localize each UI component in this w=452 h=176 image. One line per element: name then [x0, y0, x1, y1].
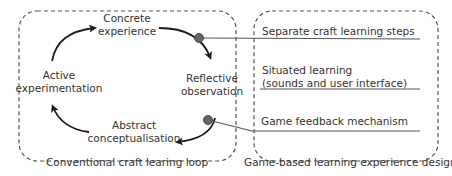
- arrow-active-to-concrete: [52, 28, 94, 61]
- arrow-concrete-to-reflective: [159, 28, 210, 57]
- left-panel-caption: Conventional craft learing loop: [32, 156, 222, 169]
- stage-label-line: Abstract: [84, 119, 184, 132]
- stage-label-line: Active: [14, 69, 104, 82]
- stage-label-line: Concrete: [92, 12, 162, 25]
- stage-label-line: Reflective: [172, 72, 252, 85]
- stage-label-line: experimentation: [14, 82, 104, 95]
- stage-active-experimentation: Active experimentation: [14, 69, 104, 95]
- connector-node-top: [195, 34, 204, 43]
- item-label-line: Situated learning: [262, 64, 407, 77]
- connector-line-top: [199, 38, 420, 39]
- item-separate-craft-steps: Separate craft learning steps: [262, 25, 415, 38]
- item-label-line: Separate craft learning steps: [262, 25, 415, 38]
- stage-abstract-conceptualisation: Abstract conceptualisation: [84, 119, 184, 145]
- stage-label-line: experience: [92, 25, 162, 38]
- item-game-feedback: Game feedback mechanism: [261, 115, 408, 128]
- item-label-line: Game feedback mechanism: [261, 115, 408, 128]
- stage-label-line: conceptualisation: [84, 132, 184, 145]
- stage-reflective-observation: Reflective observation: [172, 72, 252, 98]
- item-situated-learning: Situated learning (sounds and user inter…: [262, 64, 407, 90]
- connector-node-bottom: [204, 116, 213, 125]
- right-panel-caption: Game-based learning experience design: [244, 156, 452, 169]
- stage-concrete-experience: Concrete experience: [92, 12, 162, 38]
- item-label-line: (sounds and user interface): [262, 77, 407, 90]
- stage-label-line: observation: [172, 85, 252, 98]
